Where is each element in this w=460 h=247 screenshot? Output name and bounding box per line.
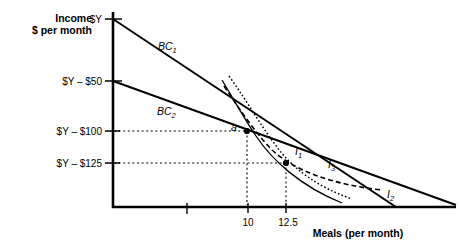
- i2-label-subscript: 2: [389, 194, 395, 203]
- x-axis-tick-labels: 10 12.5: [242, 217, 298, 228]
- y-axis-title-line-1: Income: [55, 12, 92, 24]
- bc2-label-base: BC: [157, 105, 172, 117]
- point-a-marker: [244, 128, 250, 134]
- y-tick-label-Y-minus-50: $Y – $50: [62, 76, 102, 87]
- x-axis-title: Meals (per month): [313, 227, 403, 239]
- budget-constraint-1-label: BC1: [158, 40, 177, 55]
- y-axis-title: Income $ per month: [32, 12, 92, 36]
- x-tick-label-12-5: 12.5: [278, 217, 298, 228]
- y-axis-title-line-2: $ per month: [32, 24, 92, 36]
- i3-label-subscript: 3: [331, 164, 336, 173]
- y-axis-tick-labels: $Y $Y – $50 $Y – $100 $Y – $125: [57, 14, 103, 169]
- x-axis-ticks: [187, 203, 286, 214]
- indifference-curve-2-label: I2: [387, 188, 395, 203]
- y-tick-label-Y-minus-100: $Y – $100: [57, 126, 103, 137]
- x-tick-label-10: 10: [242, 217, 254, 228]
- budget-constraint-1-line: [113, 19, 396, 207]
- budget-constraint-indifference-curve-chart: Income $ per month $Y $Y – $50 $Y – $100…: [0, 0, 460, 247]
- indifference-curve-3-path: [224, 86, 382, 190]
- bc1-label-base: BC: [158, 40, 173, 52]
- point-a-label: a: [231, 121, 237, 133]
- budget-constraint-2-line: [113, 81, 456, 205]
- curve-labels: BC1 BC2 I1 I2 I3: [157, 40, 395, 203]
- budget-constraint-2-label: BC2: [157, 105, 177, 120]
- bc1-label-subscript: 1: [173, 46, 177, 55]
- bc2-label-subscript: 2: [171, 111, 177, 120]
- y-tick-label-Y: $Y: [90, 14, 103, 25]
- i1-label-subscript: 1: [298, 151, 302, 160]
- point-tangency-marker: [283, 160, 289, 166]
- y-tick-label-Y-minus-125: $Y – $125: [57, 158, 103, 169]
